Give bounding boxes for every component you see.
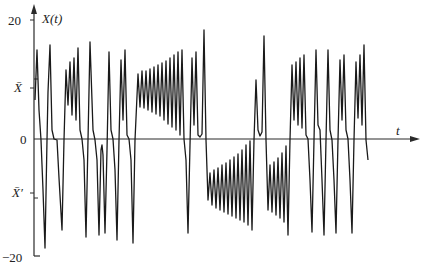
x-axis-arrow-icon: [410, 136, 420, 142]
y-tick-label-20: 20: [8, 14, 21, 27]
y-tick-label-xbar-prime: X̄′: [12, 186, 23, 199]
chart-canvas: [0, 0, 428, 271]
x-axis-title: t: [396, 124, 400, 137]
y-axis-arrow-icon: [31, 4, 37, 14]
y-tick-label-0: 0: [20, 133, 27, 146]
y-tick-label-xbar: X̄: [14, 81, 22, 94]
y-axis-title: X(t): [42, 12, 62, 25]
y-tick-label-neg20: −20: [2, 251, 22, 264]
